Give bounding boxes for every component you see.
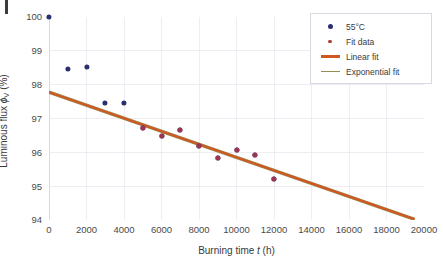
x-tick-label: 20000 <box>399 224 443 235</box>
x-axis-title: Burning time t (h) <box>49 245 424 256</box>
legend-label: Fit data <box>343 37 374 47</box>
legend-label: 55°C <box>343 22 365 32</box>
y-axis-title-pre: Luminous flux <box>0 103 9 167</box>
y-tick-label: 98 <box>14 79 42 90</box>
legend-item-fit-data: Fit data <box>317 34 425 49</box>
legend-label: Exponential fit <box>343 67 399 77</box>
y-tick-label: 96 <box>14 147 42 158</box>
y-tick-label: 99 <box>14 45 42 56</box>
legend-marker-thin-line-icon <box>317 71 343 72</box>
y-axis-symbol: ϕ <box>0 98 9 104</box>
legend-item-55c: 55°C <box>317 19 425 34</box>
x-axis-title-pre: Burning time <box>198 245 257 256</box>
y-axis-subscript: V <box>2 93 11 98</box>
legend: 55°C Fit data Linear fit Exponential fit <box>310 13 432 84</box>
y-axis-title: Luminous flux ϕV (%) <box>0 0 11 56</box>
y-tick-label: 100 <box>14 11 42 22</box>
linear-fit-line <box>49 92 415 219</box>
legend-marker-circle-icon <box>317 24 343 29</box>
legend-marker-line-icon <box>317 55 343 58</box>
legend-item-exponential-fit: Exponential fit <box>317 64 425 79</box>
legend-item-linear-fit: Linear fit <box>317 49 425 64</box>
legend-marker-dot-icon <box>317 40 343 43</box>
y-axis-title-post: (%) <box>0 74 9 92</box>
x-axis-title-post: (h) <box>260 245 275 256</box>
legend-label: Linear fit <box>343 52 379 62</box>
y-tick-label: 97 <box>14 113 42 124</box>
figure-container: 100 99 98 97 96 95 94 Luminous flux ϕV (… <box>0 0 443 266</box>
y-tick-label: 95 <box>14 181 42 192</box>
